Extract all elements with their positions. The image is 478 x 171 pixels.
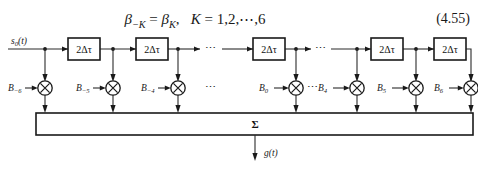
sum-arrow-3 — [175, 105, 180, 113]
coef-arrow-5 — [344, 85, 350, 90]
coefficient-label-3: B−4 — [141, 83, 155, 94]
figure-container: β−K = βK, K = 1,2,⋯,6 (4.55) — [0, 0, 478, 171]
arrow-delay5 — [428, 46, 434, 51]
delay-block-5-label: 2Δτ — [442, 44, 457, 55]
tapped-delay-line-diagram: 2Δτ 2Δτ 2Δτ 2Δτ 2Δτ — [0, 0, 478, 171]
coefficient-label-4: B0 — [259, 83, 269, 94]
multiplier-2[interactable] — [106, 81, 120, 95]
coefficient-label-6: B5 — [377, 83, 387, 94]
delay-block-1-label: 2Δτ — [76, 44, 91, 55]
coefficient-label-1: B−6 — [8, 83, 22, 94]
arrow-delay4 — [365, 46, 371, 51]
sum-arrow-2 — [110, 105, 115, 113]
coef-arrow-6 — [403, 85, 409, 90]
delay-block-2-label: 2Δτ — [144, 44, 159, 55]
ellipsis-mid-1: ⋯ — [205, 81, 217, 93]
coefficient-wires — [25, 85, 464, 90]
arrow-delay3 — [247, 46, 253, 51]
sum-arrow-7 — [468, 105, 473, 113]
delay-block-4-label: 2Δτ — [379, 44, 394, 55]
summation-block[interactable]: Σ — [36, 113, 473, 135]
output-label: g(t) — [264, 148, 278, 159]
delay-block-5[interactable]: 2Δτ — [434, 38, 466, 60]
ellipsis-mid-2: ⋯ — [307, 81, 319, 93]
arrow-seg5 — [305, 46, 311, 51]
sum-arrow-6 — [413, 105, 418, 113]
coef-arrow-1 — [32, 85, 38, 90]
coefficient-label-2: B−5 — [76, 83, 90, 94]
output-arrow — [252, 153, 257, 161]
summation-symbol: Σ — [251, 118, 258, 130]
multiplier-1[interactable] — [38, 81, 52, 95]
delay-block-3[interactable]: 2Δτ — [253, 38, 285, 60]
delay-block-3-label: 2Δτ — [261, 44, 276, 55]
delay-block-2[interactable]: 2Δτ — [136, 38, 168, 60]
arrow-delay2 — [130, 46, 136, 51]
sum-arrow-4 — [293, 105, 298, 113]
sum-arrow-5 — [354, 105, 359, 113]
output-path — [252, 135, 257, 161]
input-label: s0(t) — [11, 36, 27, 47]
arrow-seg3 — [194, 46, 200, 51]
multiplier-4[interactable] — [289, 81, 303, 95]
coefficient-label-5: B4 — [318, 83, 328, 94]
multiplier-7[interactable] — [464, 81, 478, 95]
arrow-delay1 — [62, 46, 68, 51]
coef-arrow-4 — [283, 85, 289, 90]
coef-arrow-3 — [165, 85, 171, 90]
multiplier-3[interactable] — [171, 81, 185, 95]
coefficient-label-7: B6 — [434, 83, 444, 94]
coef-arrow-2 — [100, 85, 106, 90]
ellipsis-top-1: ⋯ — [205, 42, 217, 54]
ellipsis-top-2: ⋯ — [315, 42, 327, 54]
delay-block-1[interactable]: 2Δτ — [68, 38, 100, 60]
multiplier-5[interactable] — [350, 81, 364, 95]
sum-arrow-1 — [42, 105, 47, 113]
coef-arrow-7 — [458, 85, 464, 90]
multiplier-6[interactable] — [409, 81, 423, 95]
summation-input-wires — [42, 95, 473, 113]
delay-block-4[interactable]: 2Δτ — [371, 38, 403, 60]
